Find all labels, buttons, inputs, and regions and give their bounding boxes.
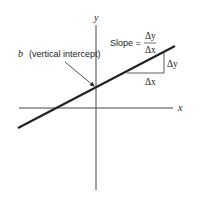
intercept-symbol: b: [18, 48, 23, 59]
linear-function-diagram: y x Δy Δx Slope = Δy Δx b (vertical inte…: [0, 0, 199, 198]
slope-denominator: Δx: [145, 45, 156, 55]
intercept-arrow: [65, 62, 94, 86]
rise-label: Δy: [167, 59, 178, 69]
intercept-text: (vertical intercept): [29, 49, 101, 59]
intercept-label: b (vertical intercept): [18, 43, 101, 60]
run-label: Δx: [145, 77, 156, 87]
slope-label: Slope =: [110, 38, 141, 48]
y-axis-label: y: [93, 12, 99, 23]
x-axis-label: x: [177, 102, 183, 113]
slope-numerator: Δy: [145, 31, 156, 41]
